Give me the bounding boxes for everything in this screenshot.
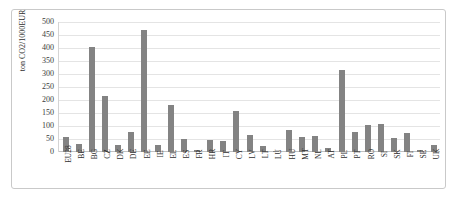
bar-slot [59, 22, 72, 152]
x-label-slot: SI [374, 154, 387, 188]
x-label-slot: HU [282, 154, 295, 188]
bar-slot [230, 22, 243, 152]
x-label-slot: PT [348, 154, 361, 188]
bar-slot [72, 22, 85, 152]
bar-cz[interactable] [102, 96, 108, 152]
y-tick-450: 450 [42, 31, 54, 39]
y-tick-300: 300 [42, 70, 54, 78]
bar-slot [190, 22, 203, 152]
bar-slot [322, 22, 335, 152]
x-label-slot: DK [111, 154, 124, 188]
x-label-slot: DE [124, 154, 137, 188]
x-tick-uk: UK [433, 149, 441, 160]
bar-slot [125, 22, 138, 152]
bar-slot [282, 22, 295, 152]
bar-pl[interactable] [339, 70, 345, 152]
bar-slot [177, 22, 190, 152]
x-label-slot: IT [216, 154, 229, 188]
bar-fi[interactable] [404, 133, 410, 152]
y-tick-250: 250 [42, 83, 54, 91]
y-tick-150: 150 [42, 109, 54, 117]
bar-slot [427, 22, 440, 152]
x-label-slot: LV [242, 154, 255, 188]
bar-slot [269, 22, 282, 152]
y-tick-50: 50 [46, 135, 54, 143]
x-label-slot: PL [335, 154, 348, 188]
bar-slot [151, 22, 164, 152]
x-label-slot: BE [71, 154, 84, 188]
y-axis-tick-labels: 500 450 400 350 300 250 200 150 100 50 0 [30, 22, 54, 152]
bar-series [59, 22, 440, 152]
bar-bg[interactable] [89, 47, 95, 152]
x-label-slot: CY [229, 154, 242, 188]
bar-slot [296, 22, 309, 152]
bar-slot [361, 22, 374, 152]
x-label-slot: LT [256, 154, 269, 188]
x-label-slot: EU28 [58, 154, 71, 188]
x-label-slot: FI [400, 154, 413, 188]
x-label-slot: AT [321, 154, 334, 188]
x-label-slot: RO [361, 154, 374, 188]
bar-slot [348, 22, 361, 152]
x-axis-tick-labels: EU28BEBGCZDKDEEEIEELESFRHRITCYLVLTLUHUMT… [58, 154, 440, 188]
bar-slot [85, 22, 98, 152]
bar-slot [335, 22, 348, 152]
x-label-slot: UK [427, 154, 440, 188]
y-tick-0: 0 [50, 148, 54, 156]
bar-cy[interactable] [233, 111, 239, 152]
x-label-slot: FR [190, 154, 203, 188]
x-label-slot: CZ [98, 154, 111, 188]
x-label-slot: SK [387, 154, 400, 188]
x-label-slot: LU [269, 154, 282, 188]
y-tick-500: 500 [42, 18, 54, 26]
plot-area [58, 22, 440, 152]
x-label-slot: EE [137, 154, 150, 188]
x-label-slot: BG [84, 154, 97, 188]
bar-si[interactable] [378, 124, 384, 152]
y-tick-100: 100 [42, 122, 54, 130]
x-label-slot: EL [163, 154, 176, 188]
bar-slot [217, 22, 230, 152]
bar-slot [309, 22, 322, 152]
bar-slot [374, 22, 387, 152]
bar-slot [112, 22, 125, 152]
bar-slot [98, 22, 111, 152]
bar-slot [401, 22, 414, 152]
y-tick-200: 200 [42, 96, 54, 104]
x-label-slot: HR [203, 154, 216, 188]
y-tick-350: 350 [42, 57, 54, 65]
x-label-slot: MT [295, 154, 308, 188]
y-axis-title: ton CO2/1000EUR [18, 0, 27, 91]
bar-el[interactable] [168, 105, 174, 152]
chart-container: ton CO2/1000EUR 500 450 400 350 300 250 … [0, 0, 457, 199]
x-label-slot: SE [414, 154, 427, 188]
x-label-slot: ES [177, 154, 190, 188]
bar-slot [243, 22, 256, 152]
bar-slot [256, 22, 269, 152]
x-label-slot: IE [150, 154, 163, 188]
bar-slot [138, 22, 151, 152]
bar-slot [164, 22, 177, 152]
bar-slot [204, 22, 217, 152]
bar-slot [388, 22, 401, 152]
x-label-slot: NL [308, 154, 321, 188]
bar-slot [414, 22, 427, 152]
bar-ee[interactable] [141, 30, 147, 152]
y-tick-400: 400 [42, 44, 54, 52]
